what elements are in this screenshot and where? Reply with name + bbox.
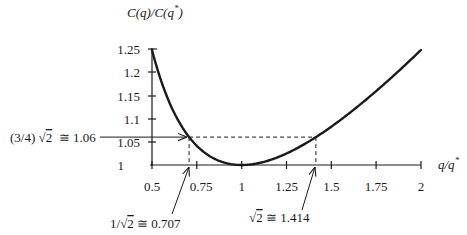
x-tick-labels: 0.5 0.75 1 1.25 1.5 1.75 2 <box>144 179 424 194</box>
arrow-to-x-0707 <box>172 167 189 214</box>
annotation-x2-label: √2 ≅ 1.414 <box>249 210 310 225</box>
y-tick-label: 1.15 <box>117 89 140 104</box>
y-axis-title: C(q)/C(q*) <box>127 3 183 20</box>
x-tick-label: 1.5 <box>323 179 339 194</box>
x-axis-title: q/q* <box>438 155 460 172</box>
reference-lines <box>189 137 316 165</box>
y-tick-labels: 1.25 1.2 1.15 1.1 1.05 1 <box>117 42 140 173</box>
axes <box>148 48 421 169</box>
x-tick-label: 0.5 <box>144 179 160 194</box>
y-tick-label: 1.25 <box>117 42 140 57</box>
annotation-y-label: (3/4) √2 ≅ 1.06 <box>10 130 96 145</box>
x-tick-label: 1.25 <box>275 179 298 194</box>
x-tick-label: 1 <box>238 179 245 194</box>
y-tick-label: 1 <box>118 158 125 173</box>
annotation-x1-label: 1/√2 ≅ 0.707 <box>110 216 181 231</box>
x-tick-label: 0.75 <box>190 179 213 194</box>
arrow-to-x-1414 <box>302 167 315 210</box>
x-tick-label: 2 <box>418 179 425 194</box>
x-tick-label: 1.75 <box>365 179 388 194</box>
y-tick-label: 1.1 <box>124 112 140 127</box>
cost-ratio-chart: C(q)/C(q*) 1.25 1.2 1.15 1.1 1.05 1 0.5 … <box>0 0 467 235</box>
cost-ratio-curve <box>152 50 421 165</box>
y-tick-label: 1.2 <box>124 65 140 80</box>
